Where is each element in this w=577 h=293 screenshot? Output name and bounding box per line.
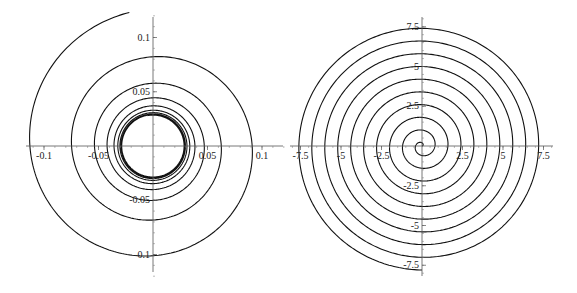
right-spiral-chart: -7.5-5-2.52.557.57.552.5-2.5-5-7.5 [290, 17, 553, 276]
x-tick-label: 2.5 [456, 150, 469, 161]
x-tick-label: -7.5 [293, 150, 309, 161]
left-spiral-chart: -0.1-0.050.050.10.10.05-0.05-0.1 [26, 12, 284, 276]
y-tick-label: 5 [414, 61, 419, 72]
y-tick-label: -0.05 [129, 194, 150, 205]
x-tick-label: 0.05 [199, 150, 217, 161]
x-tick-label: 7.5 [537, 150, 550, 161]
x-tick-label: -0.1 [36, 150, 52, 161]
spiral-charts: -0.1-0.050.050.10.10.05-0.05-0.1 -7.5-5-… [0, 0, 577, 293]
y-tick-label: 2.5 [407, 100, 420, 111]
axes: -0.1-0.050.050.10.10.05-0.05-0.1 [26, 16, 284, 276]
x-tick-label: 5 [501, 150, 506, 161]
y-tick-label: -7.5 [403, 259, 419, 270]
x-tick-label: 0.1 [256, 150, 269, 161]
x-tick-label: -0.05 [88, 150, 109, 161]
y-tick-label: 7.5 [407, 21, 420, 32]
axes: -7.5-5-2.52.557.57.552.5-2.5-5-7.5 [290, 17, 553, 276]
spiral-curve [30, 12, 253, 256]
y-tick-label: 0.1 [138, 32, 151, 43]
y-tick-label: -2.5 [403, 180, 419, 191]
y-tick-label: -0.1 [134, 249, 150, 260]
y-tick-label: 0.05 [133, 86, 151, 97]
x-tick-label: -2.5 [374, 150, 390, 161]
y-tick-label: -5 [411, 220, 419, 231]
x-tick-label: -5 [337, 150, 345, 161]
